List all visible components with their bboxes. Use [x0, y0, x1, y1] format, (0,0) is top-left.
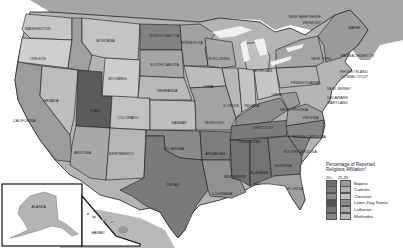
state-label-illinois: ILLINOIS [223, 105, 239, 109]
state-label-colorado: COLORADO [117, 117, 138, 121]
state-label-alaska: ALASKA [31, 206, 46, 210]
state-label-north-carolina: NORTH CAROLINA [293, 136, 326, 140]
state-label-mississippi: MISSISSIPPI [224, 176, 246, 180]
legend-item-latter-day-saints: Latter-Day Saints [326, 200, 403, 207]
legend-label: Christian [354, 194, 371, 199]
state-label-louisiana: LOUISIANA [212, 193, 232, 197]
state-label-wyoming: WYOMING [108, 78, 127, 82]
legend-item-baptist: Baptist [326, 180, 403, 187]
state-label-south-carolina: SOUTH CAROLINA [284, 151, 317, 155]
state-label-georgia: GEORGIA [274, 165, 291, 169]
state-label-vermont: VERMONT [302, 22, 321, 26]
state-label-virginia: VIRGINIA [302, 117, 319, 121]
legend-item-christian: Christian [326, 193, 403, 200]
legend-item-methodist: Methodist [326, 213, 403, 220]
state-label-montana: MONTANA [96, 40, 114, 44]
legend-label: Lutheran [354, 207, 371, 212]
state-label-texas: TEXAS [167, 184, 179, 188]
state-label-new-hampshire: NEW HAMPSHIRE [289, 16, 321, 20]
state-label-kentucky: KENTUCKY [253, 127, 273, 131]
state-label-alabama: ALABAMA [250, 172, 268, 176]
state-label-maine: MAINE [349, 27, 361, 31]
state-label-minnesota: MINNESOTA [181, 42, 203, 46]
state-label-missouri: MISSOURI [205, 122, 224, 126]
state-label-utah: UTAH [90, 110, 100, 114]
state-label-new-jersey: NEW JERSEY [327, 88, 351, 92]
state-label-north-dakota: NORTH DAKOTA [150, 35, 179, 39]
state-label-nebraska: NEBRASKA [157, 90, 177, 94]
state-label-maryland: MARYLAND [327, 102, 348, 106]
state-label-kansas: KANSAS [171, 122, 186, 126]
state-label-indiana: INDIANA [244, 105, 259, 109]
state-label-connecticut: CONNECTICUT [341, 76, 368, 80]
state-label-hawaii: HAWAII [91, 232, 104, 236]
state-label-ohio: OHIO [272, 94, 282, 98]
state-label-michigan: MICHIGAN [253, 70, 272, 74]
legend-swatch-mid [340, 213, 351, 220]
state-label-washington: WASHINGTON [25, 28, 51, 32]
legend-rows: BaptistCatholicChristianLatter-Day Saint… [326, 180, 403, 220]
state-label-california: CALIFORNIA [13, 120, 36, 124]
state-label-iowa: IOWA [204, 86, 214, 90]
state-label-new-york: NEW YORK [311, 58, 331, 62]
legend-label: Baptist [354, 181, 367, 186]
legend-title-line2: Religious Affiliation* [326, 167, 403, 172]
state-label-south-dakota: SOUTH DAKOTA [150, 64, 179, 68]
state-label-massachusetts: MASSACHUSETTS [341, 55, 374, 59]
state-label-pennsylvania: PENNSYLVANIA [291, 82, 319, 86]
state-label-oregon: OREGON [29, 58, 46, 62]
legend-swatch-high [326, 213, 337, 220]
state-label-arizona: ARIZONA [74, 152, 91, 156]
state-label-wisconsin: WISCONSIN [208, 58, 230, 62]
state-label-west-virginia: WEST VIRGINIA [280, 109, 308, 113]
state-label-new-mexico: NEW MEXICO [109, 153, 134, 157]
state-label-florida: FLORIDA [287, 188, 303, 192]
state-label-oklahoma: OKLAHOMA [163, 148, 184, 152]
legend-label: Latter-Day Saints [354, 200, 388, 205]
legend: Percentage of Reported Religious Affilia… [326, 162, 403, 219]
state-label-nevada: NEVADA [43, 100, 58, 104]
legend-label: Methodist [354, 214, 373, 219]
state-label-arkansas: ARKANSAS [205, 153, 225, 157]
state-label-tennessee: TENNESSEE [238, 141, 261, 145]
legend-item-catholic: Catholic [326, 186, 403, 193]
legend-item-lutheran: Lutheran [326, 206, 403, 213]
legend-label: Catholic [354, 187, 370, 192]
